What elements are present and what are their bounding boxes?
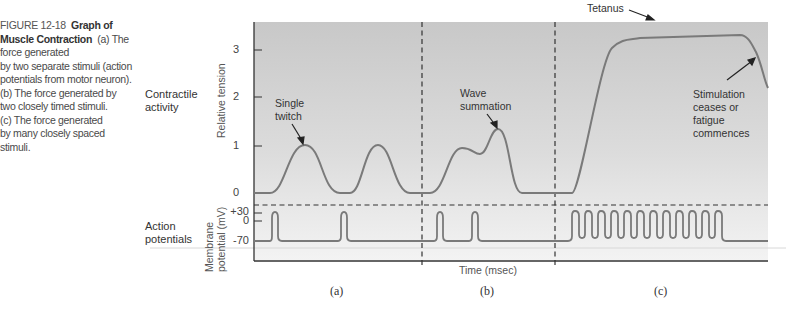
plot-background (254, 22, 768, 260)
panel-label-b: (b) (480, 284, 494, 299)
panel-label-a: (a) (330, 284, 343, 299)
tick-label-minus70: -70 (219, 234, 249, 246)
tick-label-3: 3 (209, 43, 239, 55)
single-twitch-label: Single twitch (275, 97, 304, 123)
stimulation-ceases-label: Stimulation ceases or fatigue commences (693, 88, 750, 140)
tetanus-label: Tetanus (587, 2, 624, 15)
tick-label-1: 1 (209, 139, 239, 151)
tick-label-0: 0 (209, 186, 239, 198)
panel-label-c: (c) (654, 284, 667, 299)
tick-label-2: 2 (209, 90, 239, 102)
muscle-contraction-graph (0, 0, 786, 316)
time-axis-title: Time (msec) (459, 264, 517, 277)
tick-label-mv0: 0 (219, 214, 249, 226)
wave-summation-label: Wave summation (460, 87, 511, 113)
